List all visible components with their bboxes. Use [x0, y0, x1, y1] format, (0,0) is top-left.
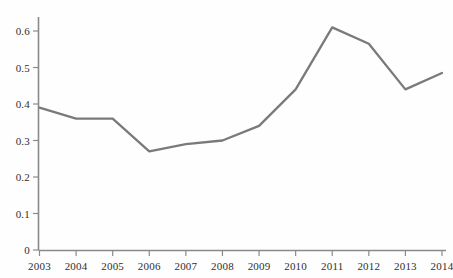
x-axis-tick-label: 2008 [211, 261, 234, 272]
x-axis-tick-label: 2010 [284, 261, 307, 272]
line-chart: 00.10.20.30.40.50.6 20032004200520062007… [0, 0, 453, 278]
x-axis-tick-marks [40, 251, 443, 257]
data-series-group [40, 27, 443, 151]
y-axis-tick-label: 0.2 [0, 172, 30, 183]
x-axis-tick-label: 2003 [28, 261, 51, 272]
x-axis-tick-label: 2011 [321, 261, 343, 272]
x-axis-tick-label: 2012 [357, 261, 380, 272]
x-axis-tick-label: 2004 [65, 261, 88, 272]
x-axis-tick-label: 2014 [431, 261, 453, 272]
y-axis-tick-label: 0.6 [0, 26, 30, 37]
x-axis-tick-label: 2013 [394, 261, 417, 272]
chart-plot-area [0, 0, 453, 278]
x-axis-tick-label: 2006 [138, 261, 161, 272]
y-axis-tick-label: 0.4 [0, 99, 30, 110]
x-axis-tick-label: 2009 [248, 261, 271, 272]
chart-axes [33, 17, 446, 256]
y-axis-tick-marks [33, 31, 39, 250]
x-axis-tick-label: 2005 [101, 261, 124, 272]
y-axis-tick-label: 0.3 [0, 135, 30, 146]
y-axis-tick-label: 0.1 [0, 208, 30, 219]
x-axis-tick-label: 2007 [174, 261, 197, 272]
data-series-line [40, 27, 443, 151]
y-axis-tick-label: 0 [0, 245, 30, 256]
y-axis-tick-label: 0.5 [0, 62, 30, 73]
